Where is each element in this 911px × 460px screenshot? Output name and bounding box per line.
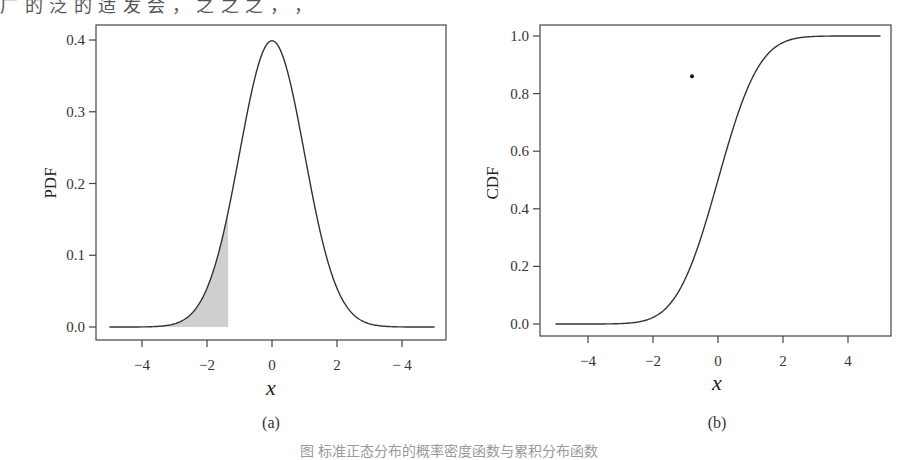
y-tick-label: 0.2 — [510, 258, 529, 274]
pdf-y-axis-label: PDF — [41, 167, 60, 198]
y-tick-label: 0.2 — [66, 176, 85, 192]
panel-label-b: (b) — [708, 414, 727, 432]
panel-label-a: (a) — [262, 414, 280, 432]
x-tick-label: 4 — [844, 353, 852, 369]
cdf-x-axis: −4−2024 — [580, 336, 852, 369]
x-tick-label: 2 — [333, 357, 341, 373]
y-tick-label: 0.8 — [510, 86, 529, 102]
y-tick-label: 0.1 — [66, 247, 85, 263]
x-tick-label: −2 — [199, 357, 215, 373]
pdf-y-axis: 0.00.10.20.30.4 — [66, 32, 96, 335]
cdf-y-axis: 0.00.20.40.60.81.0 — [510, 28, 540, 332]
pdf-plot: 0.00.10.20.30.4 −4−202− 4 PDF x (a) — [41, 25, 446, 432]
cdf-x-axis-label: x — [711, 370, 722, 395]
cdf-plot: 0.00.20.40.60.81.0 −4−2024 CDF x (b) — [483, 25, 891, 432]
pdf-x-axis: −4−202− 4 — [134, 340, 412, 373]
y-tick-label: 1.0 — [510, 28, 529, 44]
y-tick-label: 0.4 — [510, 201, 529, 217]
y-tick-label: 0.0 — [510, 316, 529, 332]
pdf-plot-frame — [96, 25, 446, 340]
y-tick-label: 0.4 — [66, 32, 85, 48]
y-tick-label: 0.0 — [66, 319, 85, 335]
pdf-curve — [110, 41, 435, 327]
x-tick-label: 0 — [268, 357, 276, 373]
x-tick-label: − 4 — [392, 357, 412, 373]
x-tick-label: −2 — [645, 353, 661, 369]
pdf-x-axis-label: x — [265, 375, 276, 400]
y-tick-label: 0.6 — [510, 143, 529, 159]
figure-caption: 图 标准正态分布的概率密度函数与累积分布函数 — [300, 440, 598, 460]
x-tick-label: −4 — [134, 357, 150, 373]
x-tick-label: 0 — [714, 353, 722, 369]
shaded-tail-area — [110, 212, 229, 327]
cdf-curve — [556, 36, 881, 324]
y-tick-label: 0.3 — [66, 104, 85, 120]
x-tick-label: 2 — [779, 353, 787, 369]
cdf-plot-frame — [540, 25, 891, 336]
cdf-y-axis-label: CDF — [483, 166, 502, 199]
x-tick-label: −4 — [580, 353, 596, 369]
stray-dot-marker — [690, 74, 694, 78]
